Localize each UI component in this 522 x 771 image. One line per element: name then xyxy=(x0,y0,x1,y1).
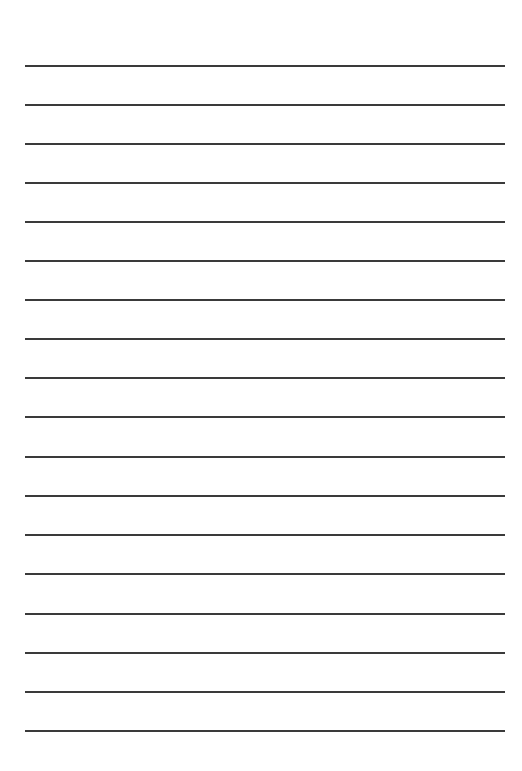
ruled-line xyxy=(25,456,505,458)
ruled-line xyxy=(25,65,505,67)
ruled-line xyxy=(25,613,505,615)
ruled-line xyxy=(25,377,505,379)
ruled-line xyxy=(25,652,505,654)
ruled-line xyxy=(25,104,505,106)
ruled-line xyxy=(25,416,505,418)
ruled-line xyxy=(25,260,505,262)
ruled-line xyxy=(25,182,505,184)
ruled-line xyxy=(25,221,505,223)
ruled-line xyxy=(25,573,505,575)
ruled-line xyxy=(25,534,505,536)
ruled-line xyxy=(25,143,505,145)
ruled-line xyxy=(25,299,505,301)
ruled-line xyxy=(25,495,505,497)
ruled-line xyxy=(25,730,505,732)
lined-paper-page xyxy=(0,0,522,771)
ruled-line xyxy=(25,691,505,693)
ruled-line xyxy=(25,338,505,340)
